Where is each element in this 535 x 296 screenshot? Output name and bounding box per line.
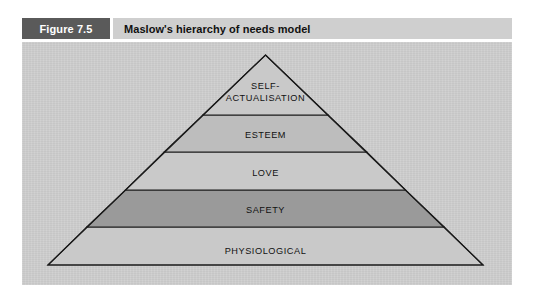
tier-label-self-actualisation-line2: ACTUALISATION (226, 93, 305, 103)
tier-label-self-actualisation-line1: SELF- (251, 81, 280, 91)
pyramid-tier-love: LOVE (125, 152, 405, 190)
pyramid-tier-self-actualisation: SELF- ACTUALISATION (203, 55, 328, 115)
figure-header: Figure 7.5 Maslow's hierarchy of needs m… (22, 18, 512, 39)
figure-number-badge: Figure 7.5 (22, 18, 110, 39)
figure-title-bar: Maslow's hierarchy of needs model (113, 18, 512, 39)
pyramid-tier-safety: SAFETY (87, 190, 445, 227)
figure-root: Figure 7.5 Maslow's hierarchy of needs m… (0, 0, 535, 296)
tier-label-safety: SAFETY (246, 205, 285, 215)
pyramid-tier-physiological: PHYSIOLOGICAL (48, 227, 483, 265)
maslow-pyramid-diagram: PHYSIOLOGICAL SAFETY LOVE ESTEEM SELF- (22, 42, 512, 285)
figure-number-label: Figure 7.5 (40, 23, 93, 35)
tier-label-love: LOVE (252, 168, 279, 178)
figure-title-text: Maslow's hierarchy of needs model (124, 23, 310, 35)
tier-label-esteem: ESTEEM (245, 130, 286, 140)
figure-panel: PHYSIOLOGICAL SAFETY LOVE ESTEEM SELF- (22, 42, 512, 285)
pyramid-tier-esteem: ESTEEM (164, 115, 367, 152)
tier-label-physiological: PHYSIOLOGICAL (225, 246, 307, 256)
